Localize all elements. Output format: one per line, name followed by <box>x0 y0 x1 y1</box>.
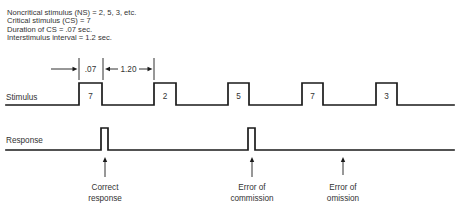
interval-label: 1.20 <box>121 65 137 74</box>
stimulus-value: 3 <box>384 92 389 101</box>
stimulus-value: 5 <box>236 92 241 101</box>
stimulus-label: Stimulus <box>6 93 37 102</box>
vigilance-task-diagram: Noncritical stimulus (NS) = 2, 5, 3, etc… <box>0 0 458 205</box>
annotation-line-2: response <box>88 194 122 203</box>
annotation-line-1: Error of <box>329 183 357 192</box>
definition-interstimulus-interval: Interstimulus interval = 1.2 sec. <box>7 33 112 42</box>
duration-label: .07 <box>85 65 97 74</box>
arrow-left-icon <box>105 67 118 71</box>
stimulus-value: 7 <box>310 92 315 101</box>
annotation-correct-response: Correct response <box>88 157 122 203</box>
annotation-line-2: commission <box>230 194 274 203</box>
arrow-up-icon <box>103 157 107 177</box>
annotation-error-of-commission: Error of commission <box>230 157 274 203</box>
response-label: Response <box>6 136 43 145</box>
timing-annotation: .07 1.20 <box>51 58 154 80</box>
annotation-line-1: Error of <box>238 183 266 192</box>
arrow-up-icon <box>250 157 254 177</box>
annotation-line-1: Correct <box>92 183 120 192</box>
stimulus-trace: Stimulus 7 2 5 7 3 <box>6 83 454 105</box>
definitions-block: Noncritical stimulus (NS) = 2, 5, 3, etc… <box>7 8 136 43</box>
arrow-up-icon <box>341 157 345 175</box>
arrow-right-icon <box>139 67 153 71</box>
response-trace: Response <box>6 128 454 150</box>
stimulus-value: 2 <box>163 92 168 101</box>
response-waveform <box>6 128 454 150</box>
annotation-error-of-omission: Error of omission <box>327 157 360 203</box>
stimulus-value: 7 <box>88 92 93 101</box>
arrow-right-icon <box>51 67 78 71</box>
annotation-line-2: omission <box>327 194 360 203</box>
